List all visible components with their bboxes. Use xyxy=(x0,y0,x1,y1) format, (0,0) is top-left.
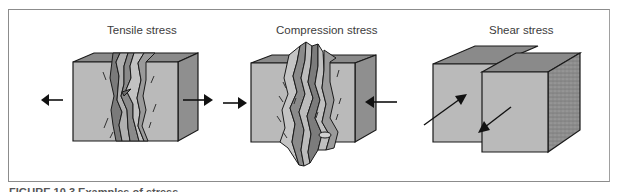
tensile-left-arrow xyxy=(41,94,63,106)
compression-left-arrow xyxy=(223,97,247,109)
compression-crumple xyxy=(280,42,338,166)
figure-caption: FIGURE 10.3 Examples of stress xyxy=(9,186,178,192)
tensile-block xyxy=(73,53,198,141)
shear-front-block xyxy=(482,53,580,152)
stress-diagram xyxy=(0,0,617,192)
compression-block xyxy=(251,42,376,166)
